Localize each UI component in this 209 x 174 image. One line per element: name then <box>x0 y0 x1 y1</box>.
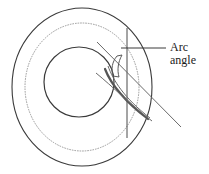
outer-circle <box>12 8 152 166</box>
middle-dotted-circle <box>25 23 139 151</box>
arc-angle-label-line2: angle <box>170 54 196 67</box>
tangent-curve <box>96 73 152 121</box>
angle-arc-marker <box>112 56 117 76</box>
arc-angle-figure: Arc angle <box>0 0 209 174</box>
inner-circle <box>44 47 114 117</box>
diagram-canvas <box>0 0 209 174</box>
